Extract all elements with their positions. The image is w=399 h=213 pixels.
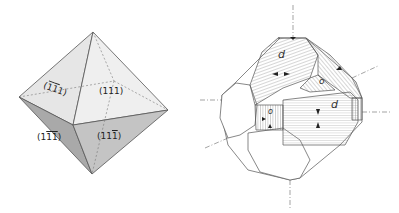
face-label-upper-right: (111)	[99, 86, 123, 96]
truncated-crystal-diagram	[200, 5, 390, 210]
face-label-o-left: o	[268, 107, 273, 116]
face-label-d-upper: d	[278, 48, 285, 61]
face-label-lower-left: (111)	[37, 132, 61, 142]
face-label-o-upper: o	[319, 76, 325, 86]
octahedron-diagram	[0, 0, 399, 213]
face-label-d-middle: d	[331, 98, 338, 111]
face-label-lower-right: (111)	[97, 131, 121, 141]
